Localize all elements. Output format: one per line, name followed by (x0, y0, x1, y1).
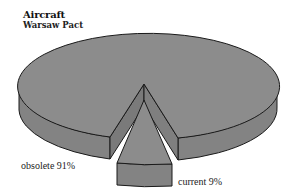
label-obsolete: obsolete 91% (21, 160, 75, 171)
label-current: current 9% (178, 176, 222, 187)
